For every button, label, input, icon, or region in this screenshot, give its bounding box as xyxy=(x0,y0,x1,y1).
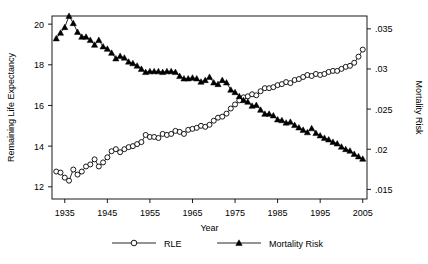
y2-tick-label: .025 xyxy=(375,105,393,115)
y-tick-label: 18 xyxy=(34,60,44,70)
marker-open-circle xyxy=(181,131,186,136)
chart-svg: 19351945195519651975198519952005Year1214… xyxy=(0,0,428,264)
marker-open-circle xyxy=(105,155,110,160)
y-tick-label: 12 xyxy=(34,182,44,192)
marker-filled-triangle xyxy=(74,29,80,35)
x-tick-label: 1975 xyxy=(225,208,245,218)
marker-open-circle xyxy=(233,102,238,107)
marker-filled-triangle xyxy=(309,125,315,131)
y-tick-label: 14 xyxy=(34,142,44,152)
marker-filled-triangle xyxy=(206,74,212,80)
marker-filled-triangle xyxy=(253,102,259,108)
marker-filled-triangle xyxy=(70,20,76,26)
marker-open-circle xyxy=(92,157,97,162)
marker-filled-triangle xyxy=(62,24,68,30)
marker-open-circle xyxy=(207,122,212,127)
x-tick-label: 2005 xyxy=(353,208,373,218)
x-axis-title: Year xyxy=(200,223,218,233)
x-tick-label: 1955 xyxy=(140,208,160,218)
x-tick-label: 1945 xyxy=(97,208,117,218)
marker-open-circle xyxy=(360,47,365,52)
marker-open-circle xyxy=(254,93,259,98)
marker-open-circle xyxy=(356,54,361,59)
marker-filled-triangle xyxy=(100,43,106,49)
marker-filled-triangle xyxy=(287,119,293,125)
x-tick-label: 1995 xyxy=(310,208,330,218)
y2-tick-label: .015 xyxy=(375,185,393,195)
marker-open-circle xyxy=(96,164,101,169)
plot-frame xyxy=(52,16,367,199)
y2-tick-label: .035 xyxy=(375,24,393,34)
marker-open-circle xyxy=(131,240,137,246)
marker-open-circle xyxy=(88,162,93,167)
marker-open-circle xyxy=(228,106,233,111)
marker-filled-triangle xyxy=(228,87,234,93)
series-line-mortality-risk xyxy=(56,16,362,159)
y-axis-title: Remaining Life Expectancy xyxy=(6,52,16,162)
marker-open-circle xyxy=(71,167,76,172)
x-tick-label: 1985 xyxy=(268,208,288,218)
y-tick-label: 16 xyxy=(34,101,44,111)
y-tick-label: 20 xyxy=(34,20,44,30)
x-tick-label: 1965 xyxy=(182,208,202,218)
marker-filled-triangle xyxy=(96,37,102,43)
marker-open-circle xyxy=(67,178,72,183)
marker-open-circle xyxy=(156,136,161,141)
legend-label-mortality-risk: Mortality Risk xyxy=(269,239,324,249)
marker-open-circle xyxy=(101,160,106,165)
marker-open-circle xyxy=(352,60,357,65)
figure-container: 19351945195519651975198519952005Year1214… xyxy=(0,0,428,264)
marker-filled-triangle xyxy=(117,53,123,59)
y2-axis-title: Mortality Risk xyxy=(414,80,424,135)
y2-tick-label: .02 xyxy=(375,145,388,155)
marker-open-circle xyxy=(79,169,84,174)
legend-label-rle: RLE xyxy=(164,239,182,249)
y2-tick-label: .03 xyxy=(375,64,388,74)
marker-open-circle xyxy=(139,140,144,145)
marker-filled-triangle xyxy=(219,77,225,83)
marker-open-circle xyxy=(224,111,229,116)
marker-open-circle xyxy=(58,170,63,175)
x-tick-label: 1935 xyxy=(55,208,75,218)
